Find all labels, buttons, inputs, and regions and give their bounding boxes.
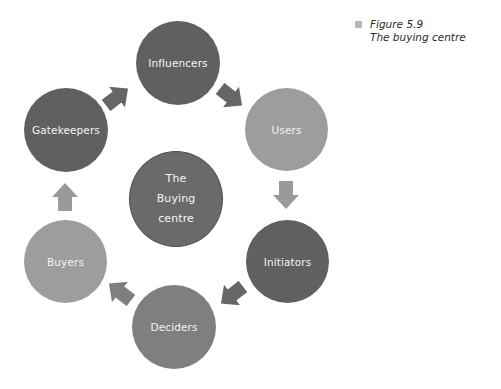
center-label-line-1: The [166, 169, 187, 189]
caption-marker-icon [355, 21, 362, 28]
center-label-line-3: centre [158, 209, 194, 229]
node-label-initiators: Initiators [264, 256, 311, 268]
arrow-down-right-icon [212, 78, 250, 116]
node-deciders: Deciders [132, 285, 216, 369]
node-buyers: Buyers [24, 220, 107, 303]
node-label-deciders: Deciders [151, 321, 198, 333]
arrow-down-icon [273, 181, 299, 209]
figure-number: Figure 5.9 [370, 18, 466, 31]
node-label-users: Users [272, 124, 302, 136]
figure-title: The buying centre [370, 31, 466, 44]
node-users: Users [245, 88, 328, 171]
arrow-down-left-icon [213, 276, 251, 314]
figure-caption: Figure 5.9 The buying centre [370, 18, 466, 44]
arrow-up-right-icon [98, 78, 136, 116]
node-gatekeepers: Gatekeepers [24, 88, 108, 172]
node-buying-centre: The Buying centre [129, 151, 223, 247]
node-label-gatekeepers: Gatekeepers [32, 124, 100, 136]
arrow-up-left-icon [101, 273, 139, 311]
arrow-up-icon [52, 183, 78, 211]
node-label-influencers: Influencers [148, 57, 207, 69]
center-label-line-2: Buying [157, 189, 196, 209]
node-label-buyers: Buyers [47, 256, 84, 268]
buying-centre-diagram: Influencers Users Initiators Deciders Bu… [0, 0, 501, 389]
node-influencers: Influencers [136, 21, 220, 105]
node-initiators: Initiators [246, 220, 329, 303]
